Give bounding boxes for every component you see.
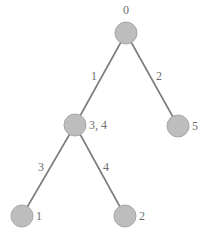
node-label: 2: [139, 209, 145, 223]
tree-diagram: 123403, 4512: [0, 0, 211, 238]
edge-label: 3: [38, 160, 44, 174]
edge-n34-n2: [75, 125, 125, 216]
node-label: 5: [192, 119, 198, 133]
edge-n34-n1: [22, 125, 75, 216]
edge-root-n34: [75, 33, 126, 125]
tree-node-n2: [114, 205, 136, 227]
node-label: 1: [36, 209, 42, 223]
edge-label: 4: [103, 160, 109, 174]
edge-label: 1: [91, 69, 97, 83]
tree-node-n5: [167, 115, 189, 137]
tree-node-n1: [11, 205, 33, 227]
edge-label: 2: [156, 69, 162, 83]
tree-node-n34: [64, 114, 86, 136]
node-label: 3, 4: [89, 118, 107, 132]
node-label: 0: [123, 3, 129, 17]
edge-root-n5: [126, 33, 178, 126]
tree-node-root: [115, 22, 137, 44]
